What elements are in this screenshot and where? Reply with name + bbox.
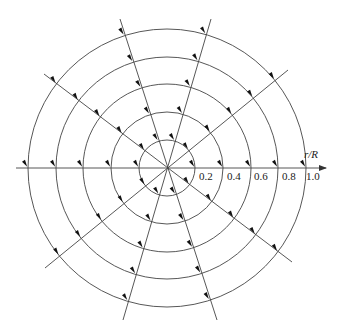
tick-label: 0.6 <box>254 170 268 182</box>
flow-arrow-icon <box>22 160 27 167</box>
axis-labels: r/R 0.20.40.60.81.0 <box>199 148 320 182</box>
flow-arrow-icon <box>200 26 205 33</box>
tick-label: 0.8 <box>282 170 296 182</box>
flow-arrow-icon <box>300 160 305 167</box>
flow-arrow-icon <box>269 72 274 79</box>
flow-arrow-icon <box>139 178 144 185</box>
tick-label: 0.2 <box>199 170 213 182</box>
radial-lines <box>16 19 326 320</box>
flow-arrow-icon <box>50 160 55 167</box>
flow-arrow-icon <box>217 160 222 167</box>
tick-label: 1.0 <box>306 170 320 182</box>
polar-diagram: r/R 0.20.40.60.81.0 <box>0 0 340 335</box>
flow-arrow-icon <box>247 90 252 97</box>
radial-line <box>45 70 288 268</box>
flow-arrow-icon <box>272 160 277 167</box>
tick-label: 0.4 <box>227 170 241 182</box>
flow-arrow-icon <box>177 106 182 113</box>
flow-arrow-icon <box>137 241 142 248</box>
flow-arrow-icon <box>130 266 135 273</box>
flow-arrow-icon <box>105 160 110 167</box>
flow-arrow-icon <box>192 53 197 60</box>
flow-arrow-icon <box>122 293 127 300</box>
flow-arrow-icon <box>245 160 250 167</box>
flow-arrow-icon <box>204 125 209 132</box>
flow-arrow-icon <box>189 160 194 167</box>
flow-arrow-icon <box>133 160 138 167</box>
flow-arrow-icon <box>226 107 231 114</box>
diagram-canvas: r/R 0.20.40.60.81.0 <box>0 0 340 335</box>
flow-arrow-icon <box>185 79 190 86</box>
flow-arrow-icon <box>77 160 82 167</box>
flow-arrow-icon <box>169 133 174 140</box>
axis-title-r-over-r: r/R <box>304 148 318 160</box>
